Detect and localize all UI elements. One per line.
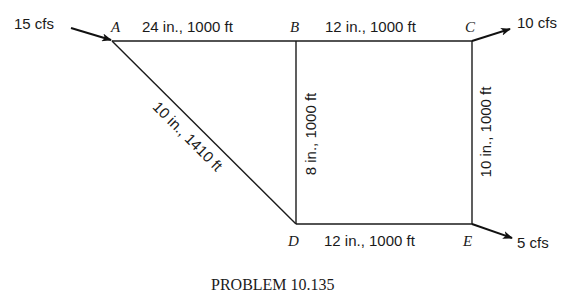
pipe-label-B-D: 8 in., 1000 ft (302, 92, 319, 175)
pipe-label-C-E: 10 in., 1000 ft (477, 86, 494, 178)
node-label-D: D (287, 233, 299, 249)
pipe-label-B-C: 12 in., 1000 ft (325, 18, 417, 35)
node-label-B: B (290, 19, 299, 35)
pipe-network-diagram: 15 cfs 10 cfs 5 cfs A B C D E 24 in., 10… (0, 0, 582, 302)
pipe-label-D-E: 12 in., 1000 ft (324, 232, 416, 249)
outflow-arrow-C (472, 29, 510, 41)
figure-caption: PROBLEM 10.135 (211, 276, 335, 293)
node-label-E: E (462, 233, 472, 249)
outflow-arrow-E (472, 224, 512, 238)
node-label-C: C (465, 19, 476, 35)
pipe-label-A-D: 10 in., 1410 ft (150, 98, 227, 175)
outflow-label-C: 10 cfs (517, 14, 557, 31)
inflow-label-A: 15 cfs (14, 15, 54, 32)
pipe-label-A-B: 24 in., 1000 ft (142, 18, 234, 35)
outflow-label-E: 5 cfs (517, 234, 549, 251)
node-label-A: A (110, 19, 121, 35)
pipe-A-D (112, 41, 296, 224)
inflow-arrow-A (71, 28, 111, 40)
